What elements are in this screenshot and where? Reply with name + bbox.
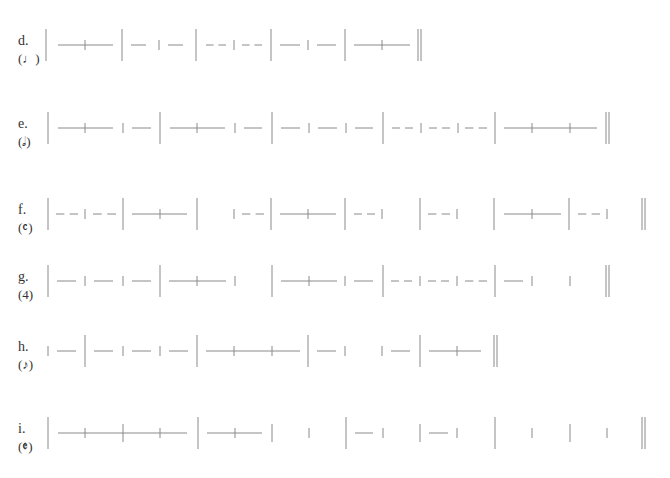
exercise-d: d. (♩) xyxy=(0,17,670,77)
exercise-g: g. (4) xyxy=(0,253,670,313)
rhythm-line xyxy=(0,186,670,246)
rhythm-line xyxy=(0,323,670,383)
rhythm-line xyxy=(0,253,670,313)
rhythm-line xyxy=(0,100,670,160)
exercise-i: i. (𝄵) xyxy=(0,405,670,465)
rhythm-line xyxy=(0,405,670,465)
exercise-h: h. (♪) xyxy=(0,323,670,383)
exercise-e: e. (𝅗𝅥) xyxy=(0,100,670,160)
rhythm-line xyxy=(0,17,670,77)
exercise-f: f. (𝄴) xyxy=(0,186,670,246)
